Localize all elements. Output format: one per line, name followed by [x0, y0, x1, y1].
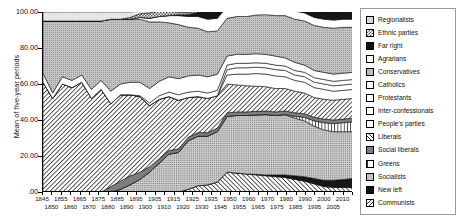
y-tick-mark — [38, 156, 42, 157]
y-tick-label: 60.00 — [4, 80, 38, 88]
legend-item[interactable]: New left — [366, 183, 452, 196]
legend-label: Conservatives — [378, 68, 420, 76]
legend-label: Far right — [378, 42, 403, 50]
y-axis-tick-labels: 100.0080.0060.0040.0020.00.00 — [0, 0, 38, 223]
swatch-white-icon — [366, 120, 374, 128]
legend-label: Catholics — [378, 81, 405, 89]
y-tick-label: 80.00 — [4, 44, 38, 52]
legend-label: Protestants — [378, 94, 411, 102]
legend-item[interactable]: Agrarians — [366, 52, 452, 65]
legend-label: Communists — [378, 199, 415, 207]
y-tick-mark — [38, 84, 42, 85]
swatch-gray-icon — [366, 146, 374, 154]
swatch-dot-light-icon — [366, 16, 374, 24]
y-tick-mark — [38, 120, 42, 121]
legend-label: Agrarians — [378, 55, 406, 63]
swatch-white-icon — [366, 107, 374, 115]
swatch-white-icon — [366, 94, 374, 102]
legend-label: People's parties — [378, 120, 425, 128]
x-tick-label: 2005 — [321, 203, 345, 210]
legend-label: Greens — [378, 160, 400, 168]
legend-item[interactable]: Ethnic parties — [366, 26, 452, 39]
legend-item[interactable]: Conservatives — [366, 65, 452, 78]
legend-label: Regionalists — [378, 16, 414, 24]
legend-item[interactable]: Liberals — [366, 131, 452, 144]
legend-item[interactable]: People's parties — [366, 118, 452, 131]
legend-item[interactable]: Communists — [366, 196, 452, 209]
legend-item[interactable]: Regionalists — [366, 13, 452, 26]
y-tick-label: 100.00 — [4, 8, 38, 16]
legend-label: Socialists — [378, 173, 406, 181]
legend-item[interactable]: Greens — [366, 157, 452, 170]
swatch-checker-icon — [366, 29, 374, 37]
swatch-white-icon — [366, 55, 374, 63]
legend-label: Ethnic parties — [378, 29, 418, 37]
legend-item[interactable]: Protestants — [366, 92, 452, 105]
swatch-black-icon — [366, 42, 374, 50]
swatch-dot-dense-icon — [366, 173, 374, 181]
legend-label: Liberals — [378, 133, 401, 141]
legend-label: New left — [378, 186, 402, 194]
swatch-dot-mid-icon — [366, 68, 374, 76]
legend-item[interactable]: Socialists — [366, 170, 452, 183]
x-tick-label: 2010 — [331, 195, 355, 202]
chart-root: Mean of five-year periods 100.0080.0060.… — [0, 0, 458, 223]
swatch-vertical-icon — [366, 160, 374, 168]
y-tick-label: 40.00 — [4, 116, 38, 124]
swatch-white-icon — [366, 81, 374, 89]
legend-item[interactable]: Far right — [366, 39, 452, 52]
swatch-black-icon — [366, 186, 374, 194]
legend-item[interactable]: Catholics — [366, 78, 452, 91]
plot-area — [42, 12, 352, 192]
legend-label: Inter-confessionals — [378, 107, 433, 115]
swatch-diagonal-icon — [366, 133, 374, 141]
legend-label: Social liberals — [378, 146, 419, 154]
stacked-area-svg — [43, 12, 352, 192]
legend: RegionalistsEthnic partiesFar rightAgrar… — [360, 8, 456, 215]
y-tick-label: 20.00 — [4, 152, 38, 160]
y-tick-mark — [38, 12, 42, 13]
y-tick-mark — [38, 48, 42, 49]
legend-item[interactable]: Inter-confessionals — [366, 105, 452, 118]
legend-item[interactable]: Social liberals — [366, 144, 452, 157]
swatch-backdiagonal-icon — [366, 199, 374, 207]
